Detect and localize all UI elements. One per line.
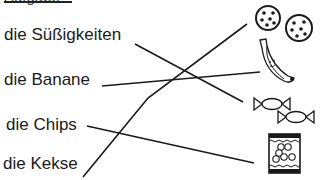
candies-icon bbox=[252, 96, 316, 126]
banana-icon bbox=[258, 38, 302, 84]
chips-bag-icon bbox=[268, 133, 302, 175]
line-suessigkeiten-candies bbox=[135, 44, 243, 102]
line-kekse-cookies bbox=[83, 24, 247, 177]
line-chips-bag bbox=[87, 126, 254, 163]
